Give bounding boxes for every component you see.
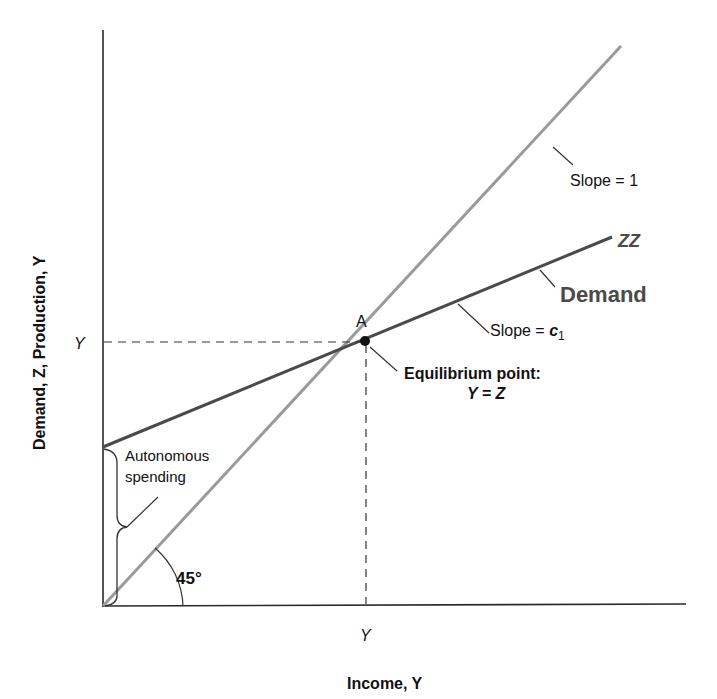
angle-45-label: 45° <box>176 569 202 588</box>
leader-equilibrium <box>370 347 397 371</box>
leader-autonomous <box>127 497 158 527</box>
y-axis-label: Demand, Z, Production, Y <box>31 255 48 450</box>
slope-c1-label: Slope = c1 <box>490 322 565 343</box>
y-axis-tick-label: Y <box>74 335 86 352</box>
autonomous-label-line1: Autonomous <box>125 447 209 464</box>
x-axis <box>102 604 686 606</box>
demand-label: Demand <box>560 282 647 307</box>
equilibrium-label-line2: Y = Z <box>467 385 507 402</box>
leader-demand <box>540 270 555 287</box>
leader-slope-c1 <box>458 304 489 333</box>
x-axis-label: Income, Y <box>347 675 423 692</box>
point-a-label: A <box>356 313 367 330</box>
equilibrium-point-a <box>360 336 370 346</box>
slope-one-label: Slope = 1 <box>570 172 638 189</box>
slope-c1-sub: 1 <box>558 329 565 343</box>
keynesian-cross-diagram: Slope = 1 ZZ Demand Slope = c1 A Equilib… <box>0 0 717 699</box>
zz-label: ZZ <box>617 231 641 251</box>
autonomous-label-line2: spending <box>125 468 186 485</box>
leader-slope-one <box>553 147 573 165</box>
slope-c1-var: c <box>549 322 558 339</box>
x-axis-tick-label: Y <box>360 627 372 644</box>
equilibrium-label-line1: Equilibrium point: <box>404 365 541 382</box>
slope-c1-prefix: Slope = <box>490 322 549 339</box>
